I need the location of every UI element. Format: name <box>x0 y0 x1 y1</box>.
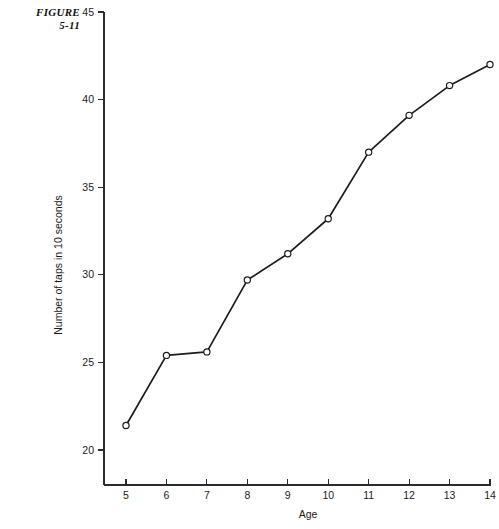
x-axis-ticks: 567891011121314 <box>123 479 496 501</box>
y-tick-label: 30 <box>82 268 94 280</box>
y-tick-label: 40 <box>82 93 94 105</box>
x-tick-label: 6 <box>164 489 170 501</box>
data-point-marker <box>487 61 493 67</box>
y-axis-title: Number of taps in 10 seconds <box>52 195 64 335</box>
x-tick-label: 8 <box>244 489 250 501</box>
data-point-marker <box>366 149 372 155</box>
x-tick-label: 13 <box>444 489 456 501</box>
y-tick-label: 20 <box>82 444 94 456</box>
chart-canvas: 202530354045 567891011121314 Number of t… <box>0 0 499 529</box>
data-point-marker <box>285 251 291 257</box>
y-tick-label: 25 <box>82 356 94 368</box>
x-tick-label: 11 <box>363 489 374 501</box>
x-tick-label: 12 <box>403 489 415 501</box>
x-tick-label: 14 <box>484 489 496 501</box>
data-series-markers <box>123 61 493 428</box>
x-tick-label: 9 <box>285 489 291 501</box>
line-chart: 202530354045 567891011121314 Number of t… <box>0 0 499 529</box>
x-tick-label: 7 <box>204 489 210 501</box>
data-point-marker <box>204 349 210 355</box>
x-tick-label: 5 <box>123 489 129 501</box>
y-tick-label: 35 <box>82 181 94 193</box>
data-point-marker <box>123 422 129 428</box>
x-axis-title: Age <box>299 508 318 520</box>
y-tick-label: 45 <box>82 6 94 18</box>
x-tick-label: 10 <box>322 489 334 501</box>
data-point-marker <box>446 82 452 88</box>
data-point-marker <box>163 352 169 358</box>
y-axis-ticks: 202530354045 <box>82 6 104 456</box>
data-point-marker <box>244 277 250 283</box>
data-point-marker <box>325 216 331 222</box>
data-series-line <box>126 65 490 426</box>
data-point-marker <box>406 112 412 118</box>
